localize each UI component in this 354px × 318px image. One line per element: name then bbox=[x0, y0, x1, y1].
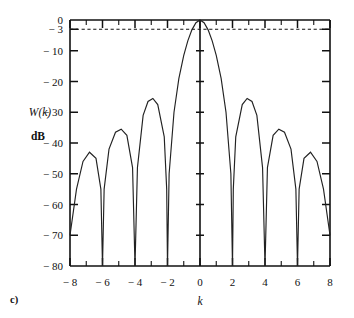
x-axis-label: k bbox=[197, 295, 203, 307]
axis-tick-labels: − 8− 6− 4− 2024680− 3− 10− 20− 30− 40− 5… bbox=[43, 14, 333, 288]
x-tick-label: 6 bbox=[295, 276, 301, 288]
y-tick-label: − 80 bbox=[43, 260, 63, 272]
x-tick-label: − 2 bbox=[160, 276, 174, 288]
y-axis-label-line2: dB bbox=[31, 130, 45, 142]
y-tick-label: − 60 bbox=[43, 199, 63, 211]
x-tick-label: 2 bbox=[230, 276, 236, 288]
x-tick-label: 4 bbox=[262, 276, 268, 288]
x-tick-label: − 8 bbox=[63, 276, 78, 288]
y-tick-label: − 10 bbox=[43, 45, 63, 57]
window-response-chart: − 8− 6− 4− 2024680− 3− 10− 20− 30− 40− 5… bbox=[0, 0, 354, 318]
y-axis-label-line1: W(k) bbox=[29, 106, 52, 119]
panel-label: c) bbox=[10, 294, 19, 306]
y-tick-label: − 50 bbox=[43, 168, 63, 180]
y-tick-label: − 40 bbox=[43, 137, 63, 149]
figure-panel-c: − 8− 6− 4− 2024680− 3− 10− 20− 30− 40− 5… bbox=[0, 0, 354, 318]
y-tick-label: − 3 bbox=[49, 23, 64, 35]
y-tick-label: − 70 bbox=[43, 229, 63, 241]
x-tick-label: 0 bbox=[197, 276, 203, 288]
y-tick-label: − 20 bbox=[43, 76, 63, 88]
x-tick-label: − 6 bbox=[95, 276, 110, 288]
x-tick-label: 8 bbox=[327, 276, 333, 288]
x-tick-label: − 4 bbox=[128, 276, 143, 288]
